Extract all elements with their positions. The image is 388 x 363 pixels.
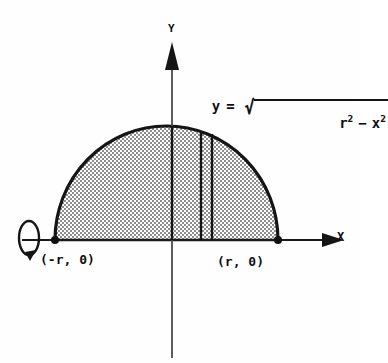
right-endpoint-dot [274, 236, 282, 244]
equation-lhs: y [212, 99, 220, 113]
left-point-label: (-r, 0) [40, 252, 95, 267]
left-endpoint-dot [51, 236, 59, 244]
x-axis-label: X [337, 230, 344, 244]
radicand-term2-base: x [372, 115, 380, 131]
equation-equals: = [226, 99, 234, 113]
radicand-term1-exponent: 2 [348, 113, 354, 124]
y-axis-arrowhead [165, 42, 179, 70]
equation-label: y = √ r2−x2 [178, 82, 388, 160]
revolution-arrow-loop [19, 221, 39, 255]
y-axis-label: Y [168, 22, 175, 35]
equation-row: y = √ r2−x2 [212, 99, 388, 144]
radicand-operator: − [358, 115, 366, 131]
radical-sign-icon: √ [245, 98, 255, 117]
radicand-term1-base: r [339, 115, 347, 131]
radical-group: √ r2−x2 [245, 99, 388, 144]
radicand: r2−x2 [254, 99, 388, 144]
radicand-term2-exponent: 2 [380, 113, 386, 124]
right-point-label: (r, 0) [217, 254, 264, 269]
